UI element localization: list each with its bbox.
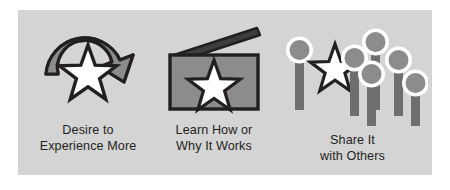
clapperboard-star-icon — [158, 22, 270, 118]
step-learn-caption-line-1: Learn How or — [150, 122, 278, 138]
step-share-caption-line-1: Share It — [273, 132, 432, 148]
step-desire-caption: Desire to Experience More — [18, 122, 158, 154]
step-share: Share It with Others — [273, 10, 432, 175]
step-desire-icon-area — [18, 10, 158, 122]
step-share-caption-line-2: with Others — [273, 148, 432, 164]
infographic-panel: Desire to Experience More Learn How or W… — [18, 10, 432, 175]
cycle-arrows-star-icon — [32, 20, 144, 116]
step-share-icon-area — [273, 10, 432, 122]
step-learn-caption-line-2: Why It Works — [150, 138, 278, 154]
people-group-star-icon — [278, 20, 428, 128]
person-pin-1 — [286, 37, 313, 111]
step-desire: Desire to Experience More — [18, 10, 158, 175]
infographic-canvas: Desire to Experience More Learn How or W… — [0, 0, 450, 190]
person-pin-6 — [402, 70, 428, 127]
step-desire-caption-line-2: Experience More — [18, 138, 158, 154]
step-learn: Learn How or Why It Works — [150, 10, 278, 175]
step-learn-caption: Learn How or Why It Works — [150, 122, 278, 154]
step-desire-caption-line-1: Desire to — [18, 122, 158, 138]
step-learn-icon-area — [150, 10, 278, 122]
step-share-caption: Share It with Others — [273, 132, 432, 164]
person-pin-4 — [358, 61, 385, 127]
